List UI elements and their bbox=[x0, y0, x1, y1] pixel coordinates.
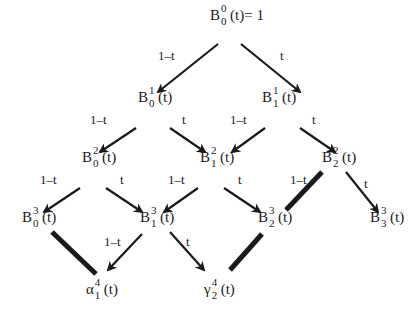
arrow-edge-B11-B21 bbox=[232, 128, 265, 152]
node-argument: (t) bbox=[230, 7, 244, 23]
node-base: B bbox=[262, 89, 272, 105]
node-argument: (t) bbox=[221, 281, 235, 297]
node-indices: 00 bbox=[221, 6, 229, 28]
node-suffix: = 1 bbox=[244, 7, 264, 23]
node-indices: 30 bbox=[33, 208, 41, 230]
node-argument: (t) bbox=[160, 209, 174, 225]
node-base: B bbox=[138, 89, 148, 105]
edge-label-B00-B11: t bbox=[280, 48, 284, 64]
node-indices: 20 bbox=[93, 148, 101, 170]
node-base: α bbox=[86, 281, 94, 297]
node-alpha41: α41(t) bbox=[86, 280, 118, 302]
arrow-edge-B22-B33 bbox=[346, 172, 378, 212]
node-argument: (t) bbox=[282, 89, 296, 105]
node-B00: B00(t)= 1 bbox=[210, 6, 264, 28]
node-indices: 33 bbox=[381, 208, 389, 230]
node-base: B bbox=[22, 209, 32, 225]
node-superscript: 2 bbox=[211, 145, 217, 156]
node-B33: B33(t) bbox=[370, 208, 404, 230]
node-superscript: 3 bbox=[269, 205, 275, 216]
node-superscript: 3 bbox=[381, 205, 387, 216]
node-argument: (t) bbox=[102, 149, 116, 165]
node-indices: 31 bbox=[151, 208, 159, 230]
edge-label-B21-B32: t bbox=[238, 172, 242, 188]
node-indices: 22 bbox=[333, 148, 341, 170]
node-argument: (t) bbox=[220, 149, 234, 165]
node-base: B bbox=[322, 149, 332, 165]
node-base: γ bbox=[204, 281, 211, 297]
edge-label-B10-B21: t bbox=[182, 112, 186, 128]
edge-label-B11-B21: 1–t bbox=[230, 112, 247, 128]
node-B32: B32(t) bbox=[258, 208, 292, 230]
edge-label-B21-B31: 1–t bbox=[168, 172, 185, 188]
node-gamma42: γ42(t) bbox=[204, 280, 235, 302]
node-subscript: 1 bbox=[211, 158, 217, 169]
edge-label-B20-B31: t bbox=[120, 172, 124, 188]
arrow-edge-B00-B11 bbox=[241, 44, 300, 92]
node-superscript: 1 bbox=[273, 85, 279, 96]
node-superscript: 2 bbox=[93, 145, 99, 156]
thick-edge-B30-alpha41 bbox=[52, 232, 96, 274]
node-indices: 42 bbox=[212, 280, 220, 302]
node-superscript: 4 bbox=[95, 277, 101, 288]
edge-label-B20-B30: 1–t bbox=[40, 172, 57, 188]
node-argument: (t) bbox=[104, 281, 118, 297]
edge-label-B31-gamma42: t bbox=[186, 234, 190, 250]
node-indices: 21 bbox=[211, 148, 219, 170]
de-casteljau-diagram: 1–tt1–tt1–tt1–tt1–tt1–tt1–tt B00(t)= 1B1… bbox=[0, 0, 420, 313]
node-indices: 11 bbox=[273, 88, 281, 110]
node-superscript: 2 bbox=[333, 145, 339, 156]
node-base: B bbox=[258, 209, 268, 225]
edge-label-B00-B10: 1–t bbox=[158, 48, 175, 64]
edge-label-B22-B32: 1–t bbox=[290, 172, 307, 188]
node-argument: (t) bbox=[158, 89, 172, 105]
node-superscript: 0 bbox=[221, 3, 227, 14]
node-subscript: 3 bbox=[381, 218, 387, 229]
node-superscript: 3 bbox=[33, 205, 39, 216]
node-subscript: 2 bbox=[333, 158, 339, 169]
edge-label-B22-B33: t bbox=[364, 176, 368, 192]
arrow-edge-B21-B32 bbox=[224, 188, 260, 212]
node-indices: 32 bbox=[269, 208, 277, 230]
node-argument: (t) bbox=[278, 209, 292, 225]
node-subscript: 1 bbox=[273, 98, 279, 109]
node-base: B bbox=[200, 149, 210, 165]
node-subscript: 1 bbox=[95, 290, 101, 301]
node-subscript: 0 bbox=[149, 98, 155, 109]
node-subscript: 0 bbox=[221, 16, 227, 27]
node-B11: B11(t) bbox=[262, 88, 296, 110]
node-superscript: 3 bbox=[151, 205, 157, 216]
edge-label-B10-B20: 1–t bbox=[90, 112, 107, 128]
node-B31: B31(t) bbox=[140, 208, 174, 230]
node-subscript: 0 bbox=[93, 158, 99, 169]
node-subscript: 2 bbox=[269, 218, 275, 229]
edge-label-B11-B22: t bbox=[312, 112, 316, 128]
node-B20: B20(t) bbox=[82, 148, 116, 170]
node-indices: 10 bbox=[149, 88, 157, 110]
thick-edge-B32-gamma42 bbox=[230, 234, 262, 270]
node-B21: B21(t) bbox=[200, 148, 234, 170]
node-subscript: 0 bbox=[33, 218, 39, 229]
node-B10: B10(t) bbox=[138, 88, 172, 110]
node-B30: B30(t) bbox=[22, 208, 56, 230]
arrow-edge-B20-B31 bbox=[106, 188, 142, 212]
node-base: B bbox=[140, 209, 150, 225]
node-argument: (t) bbox=[390, 209, 404, 225]
node-indices: 41 bbox=[95, 280, 103, 302]
node-subscript: 2 bbox=[212, 290, 218, 301]
node-argument: (t) bbox=[342, 149, 356, 165]
node-base: B bbox=[210, 7, 220, 23]
edge-label-B31-alpha41: 1–t bbox=[104, 234, 121, 250]
node-B22: B22(t) bbox=[322, 148, 356, 170]
node-superscript: 4 bbox=[212, 277, 218, 288]
node-superscript: 1 bbox=[149, 85, 155, 96]
node-base: B bbox=[82, 149, 92, 165]
node-subscript: 1 bbox=[151, 218, 157, 229]
node-base: B bbox=[370, 209, 380, 225]
node-argument: (t) bbox=[42, 209, 56, 225]
